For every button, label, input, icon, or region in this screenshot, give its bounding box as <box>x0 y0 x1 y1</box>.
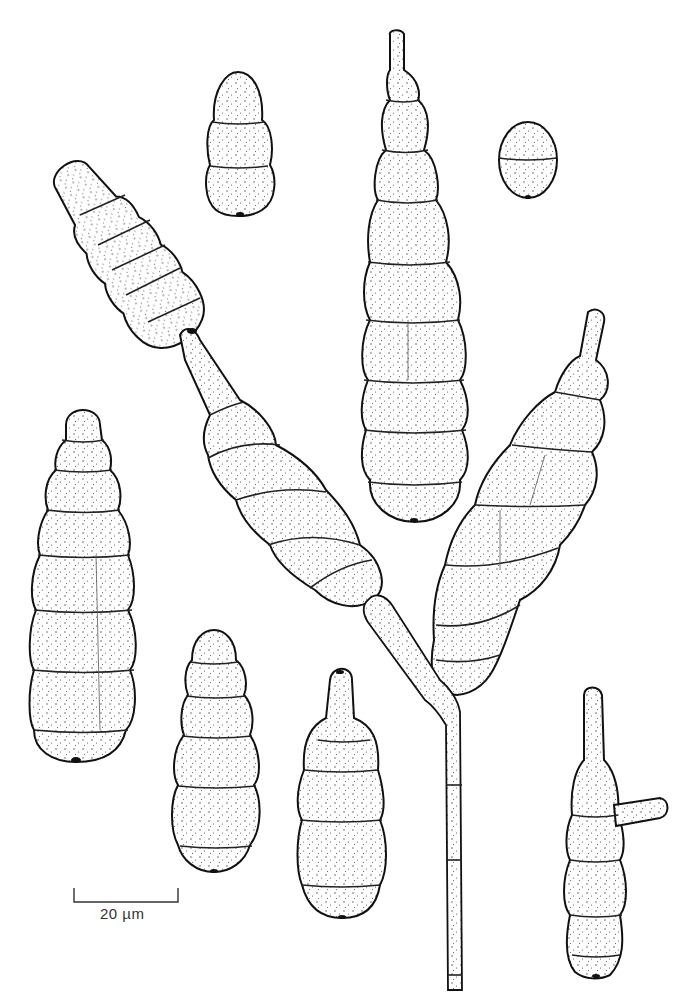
spore-bottom-left <box>172 630 260 873</box>
spore-chain-middle <box>180 328 382 606</box>
scale-bar-label: 20 µm <box>100 905 145 922</box>
spore-bottom-center <box>298 669 387 919</box>
spore-small-3cell <box>206 72 274 216</box>
scale-bar <box>74 888 178 902</box>
spore-illustration <box>0 0 700 1004</box>
spore-small-2cell <box>499 122 557 199</box>
spore-bottom-right <box>564 688 668 979</box>
spore-large-left <box>30 410 136 763</box>
spore-tall-central <box>362 30 468 522</box>
